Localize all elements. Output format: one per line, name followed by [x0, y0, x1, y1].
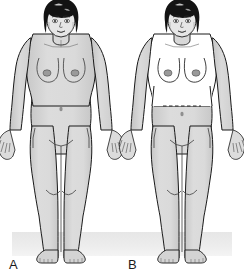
panel-a-figure [0, 0, 124, 263]
nipple-left [43, 70, 51, 76]
panel-label-b: B [128, 258, 137, 271]
navel [59, 107, 62, 111]
head [165, 0, 200, 37]
nipple-right [71, 70, 79, 76]
hand-right [228, 130, 244, 159]
navel [180, 112, 183, 116]
two-panel-female-body-diagram [0, 0, 244, 278]
hand-left [0, 130, 15, 159]
nipple-right [192, 70, 200, 76]
nipple-left [164, 70, 172, 76]
head [44, 0, 79, 37]
hand-left [119, 130, 136, 159]
panel-b-figure [119, 0, 244, 263]
panel-label-a: A [9, 258, 18, 271]
